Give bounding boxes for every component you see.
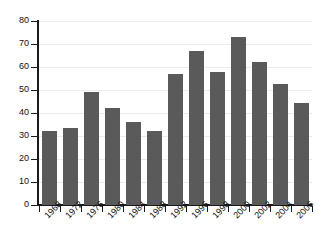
y-axis-tick-label: 0 xyxy=(0,200,29,209)
bar xyxy=(231,37,246,205)
y-axis-tick-label: 60 xyxy=(0,62,29,71)
y-axis-tick-label: 20 xyxy=(0,154,29,163)
x-axis-tick-mark xyxy=(39,206,40,212)
y-axis-tick-label: 70 xyxy=(0,39,29,48)
y-axis-tick-label: 10 xyxy=(0,177,29,186)
bar xyxy=(63,128,78,205)
bar xyxy=(273,84,288,205)
bar xyxy=(210,72,225,205)
plot-area xyxy=(39,21,312,205)
y-axis-tick-label: 50 xyxy=(0,85,29,94)
bar xyxy=(252,62,267,205)
bar xyxy=(126,122,141,205)
y-axis-tick-label: 30 xyxy=(0,131,29,140)
bar xyxy=(84,92,99,205)
y-axis-tick-labels: 01020304050607080 xyxy=(0,0,29,240)
bar xyxy=(189,51,204,205)
bar-chart-figure: 01020304050607080 1968197219761980198419… xyxy=(0,0,320,240)
bar xyxy=(42,131,57,205)
bar xyxy=(147,131,162,205)
bar xyxy=(294,103,309,205)
y-axis-tick-label: 40 xyxy=(0,108,29,117)
y-axis-tick-label: 80 xyxy=(0,16,29,25)
bar xyxy=(105,108,120,205)
bar xyxy=(168,74,183,205)
